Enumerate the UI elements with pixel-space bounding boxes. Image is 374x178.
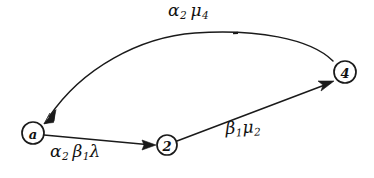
node-a-label: a bbox=[29, 127, 37, 142]
edge-label-4-to-a-s2: 4 bbox=[202, 9, 209, 21]
edge-label-a-to-2: α2β1λ bbox=[50, 143, 101, 162]
edge-label-4-to-a: α2μ4 bbox=[168, 2, 209, 21]
node-4-label: 4 bbox=[340, 66, 349, 81]
edge-4-to-a-path bbox=[49, 32, 333, 117]
edge-a-to-2-arrowhead bbox=[142, 140, 156, 150]
edge-label-a-to-2-g2: β bbox=[73, 141, 83, 161]
edge-label-2-to-4-s2: 2 bbox=[254, 125, 261, 137]
edge-4-to-a-arrowhead-fill bbox=[45, 110, 57, 124]
edge-label-a-to-2-s1: 2 bbox=[62, 150, 69, 162]
node-a[interactable]: a bbox=[22, 122, 44, 144]
edge-label-4-to-a-s1: 2 bbox=[180, 9, 187, 21]
edge-label-4-to-a-g1: α bbox=[168, 0, 180, 20]
node-4[interactable]: 4 bbox=[334, 61, 356, 83]
signal-flow-diagram: a 2 4 α2μ4 α2β1λ β1μ2 bbox=[0, 0, 374, 178]
arc-tick-mark bbox=[233, 32, 238, 35]
node-2[interactable]: 2 bbox=[157, 135, 177, 155]
node-2-label: 2 bbox=[161, 139, 171, 154]
edge-label-4-to-a-g2: μ bbox=[191, 0, 202, 20]
edge-label-2-to-4: β1μ2 bbox=[225, 118, 261, 139]
edge-label-a-to-2-g1: α bbox=[50, 141, 62, 161]
edge-label-a-to-2-s2: 1 bbox=[83, 150, 90, 162]
edge-label-a-to-2-g3: λ bbox=[90, 141, 101, 161]
edge-4-to-a bbox=[44, 32, 333, 124]
